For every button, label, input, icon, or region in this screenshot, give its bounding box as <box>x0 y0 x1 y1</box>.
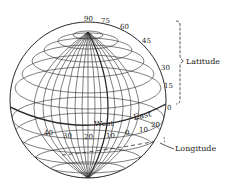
lon-tick-zero: 0 <box>125 129 129 137</box>
east-label: East <box>133 109 153 122</box>
longitude-tick <box>164 137 165 144</box>
lat-tick-45: 45 <box>142 37 151 45</box>
lat-tick-30: 30 <box>161 64 170 72</box>
lon-tick-west-40: 40 <box>44 129 53 137</box>
lon-tick-west-20: 20 <box>84 133 93 141</box>
meridians <box>34 32 139 178</box>
lat-tick-0: 0 <box>167 104 171 112</box>
lat-tick-90: 90 <box>84 15 93 23</box>
lon-tick-east-20: 20 <box>151 121 160 129</box>
latitude-ticks: 90 75 60 45 30 15 0 <box>84 15 173 112</box>
lon-tick-east-10: 10 <box>139 126 148 134</box>
lat-tick-60: 60 <box>120 23 129 31</box>
globe-diagram: 90 75 60 45 30 15 0 Latitude West East 4… <box>0 0 232 186</box>
west-label: West <box>94 119 114 128</box>
latitude-label: Latitude <box>186 57 220 66</box>
lon-tick-west-10: 10 <box>106 132 115 140</box>
lon-tick-west-30: 30 <box>63 132 72 140</box>
longitude-label: Longitude <box>175 144 216 153</box>
latitude-bracket <box>176 21 184 104</box>
lat-tick-75: 75 <box>101 17 110 25</box>
longitude-pointer <box>160 143 174 149</box>
lat-tick-15: 15 <box>164 82 173 90</box>
